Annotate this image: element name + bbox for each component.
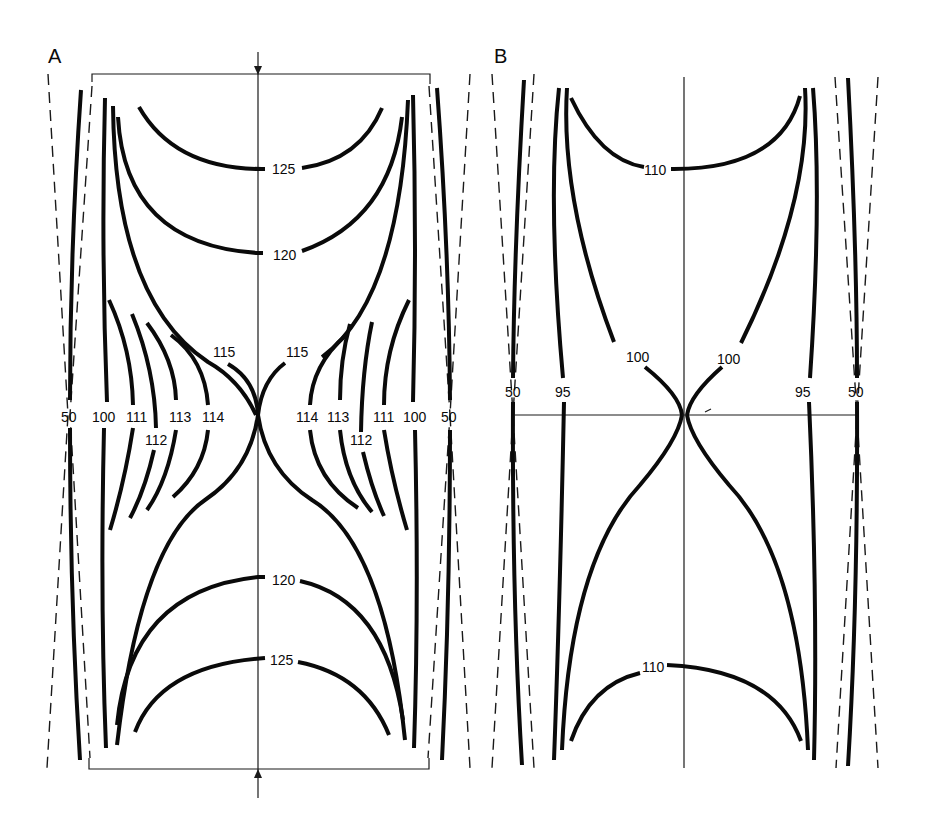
label-115-left: 115 <box>213 344 236 360</box>
label-100-right: 100 <box>717 351 741 367</box>
label-113-left: 113 <box>169 409 192 425</box>
label-112-right: 112 <box>350 432 373 448</box>
label-125-top: 125 <box>272 161 296 177</box>
panel-a-contour-111-right-top <box>384 300 409 405</box>
label-110-bottom: 110 <box>642 659 665 675</box>
panel-a-contour-120-bottom-right <box>300 581 403 720</box>
panel-b-contour-100-right-upper <box>741 88 806 343</box>
panel-b-left-dash-outer <box>492 74 513 768</box>
panel-b-contour-50-right-top <box>848 78 857 378</box>
label-50-left: 50 <box>61 409 77 425</box>
panel-b-contour-95-right-top <box>810 88 817 378</box>
panel-b-contour-95-right-bottom <box>809 402 815 760</box>
panel-b-contour-110-top-left <box>571 98 644 167</box>
label-115-right: 115 <box>286 344 309 360</box>
label-50-left: 50 <box>505 384 521 400</box>
label-114-left: 114 <box>202 409 225 425</box>
label-50-right: 50 <box>848 384 864 400</box>
panel-b-contour-110-top-right <box>671 96 800 169</box>
label-100-right: 100 <box>403 409 427 425</box>
panel-b-contour-100-left-upper <box>566 88 614 342</box>
panel-a-contour-120-top-right <box>302 117 402 251</box>
panel-a-contour-100-left-bottom <box>102 428 106 748</box>
panel-b-right-dash-outer <box>857 77 878 768</box>
panel-b-contour-100-left-near-saddle <box>645 367 682 415</box>
panel-b-contour-95-left-bottom <box>554 402 564 760</box>
label-113-right: 113 <box>327 409 350 425</box>
label-125-bottom: 125 <box>270 652 294 668</box>
panel-a-bottom-bracket <box>89 758 429 769</box>
label-100-left: 100 <box>626 349 650 365</box>
label-111-left: 111 <box>126 409 147 425</box>
panel-a-contour-100-right-bottom <box>414 430 417 748</box>
contour-figure: A <box>0 0 926 828</box>
panel-a-contour-100-right-top <box>413 95 415 402</box>
panel-b-label: B <box>494 45 507 67</box>
panel-b-contour-95-left-top <box>554 88 563 378</box>
panel-a-contour-114-left-bottom <box>173 430 208 497</box>
panel-b-contour-110-bottom-left <box>571 673 640 741</box>
label-114-right: 114 <box>296 409 319 425</box>
label-111-right: 111 <box>373 409 394 425</box>
panel-a-bottom-arrow-icon <box>254 769 262 778</box>
panel-a-contour-100-left-top <box>103 98 107 402</box>
panel-a-label: A <box>48 45 62 67</box>
label-120-top: 120 <box>273 247 297 263</box>
panel-a-contour-112-right-top-b <box>361 322 372 432</box>
panel-b-contour-50-right-bottom <box>848 402 857 766</box>
label-95-right: 95 <box>795 384 811 400</box>
label-120-bottom: 120 <box>272 572 296 588</box>
panel-a-contour-120-bottom-left <box>117 577 265 725</box>
panel-a-contour-111-right-bottom <box>384 430 407 530</box>
label-112-left: 112 <box>145 432 168 448</box>
panel-a-contour-115-right-arc <box>258 363 285 415</box>
panel-a-contour-50-right-bottom <box>442 430 450 760</box>
label-110-top: 110 <box>644 162 667 178</box>
label-95-left: 95 <box>555 384 571 400</box>
panel-a-top-bracket <box>92 74 430 84</box>
panel-b-contour-50-left-bottom <box>513 402 522 765</box>
panel-a-contour-125-bottom-right <box>298 662 389 735</box>
panel-b-contour-100-right-near-saddle <box>687 367 722 415</box>
panel-a: A <box>47 45 470 798</box>
panel-a-contour-120-top-left <box>118 117 263 253</box>
panel-a-contour-125-top-right <box>302 108 382 168</box>
label-100-left: 100 <box>92 409 116 425</box>
panel-b-contour-110-bottom-right <box>667 665 801 741</box>
panel-a-contour-50-left-top <box>70 90 81 400</box>
panel-b: B 110 100 <box>492 45 878 768</box>
panel-a-contour-125-top-left <box>139 107 265 169</box>
panel-b-tick-mark <box>705 409 711 412</box>
panel-b-contour-100-left-lower <box>562 415 682 750</box>
panel-a-contour-111-left-top <box>109 300 133 405</box>
panel-a-contour-50-left-bottom <box>70 428 80 760</box>
panel-a-contour-50-right-top <box>437 88 450 400</box>
panel-a-contour-125-bottom-left <box>135 658 265 732</box>
label-50-right: 50 <box>441 409 457 425</box>
panel-b-contour-100-right-lower <box>687 415 808 750</box>
